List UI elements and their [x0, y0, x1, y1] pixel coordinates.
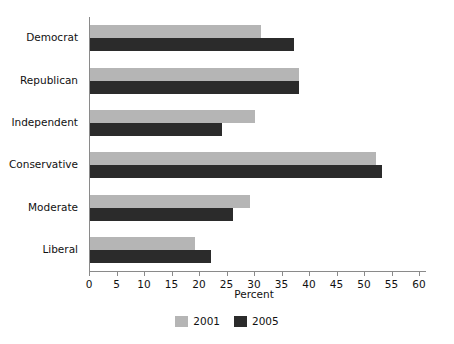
legend-label-2005: 2005 — [252, 315, 279, 327]
y-axis-label-moderate: Moderate — [0, 202, 78, 213]
x-axis-line — [89, 271, 426, 272]
y-axis-label-conservative: Conservative — [0, 159, 78, 170]
x-tick — [117, 271, 118, 276]
y-axis-category-labels: DemocratRepublicanIndependentConservativ… — [0, 17, 84, 271]
x-tick — [254, 271, 255, 276]
legend-swatch-icon-2001 — [175, 316, 188, 327]
plot-area: 051015202530354045505560 — [89, 17, 419, 271]
x-axis-title: Percent — [89, 288, 419, 300]
x-tick — [172, 271, 173, 276]
y-axis-line — [89, 17, 90, 271]
x-tick — [419, 271, 420, 276]
bar-moderate-2001 — [90, 195, 250, 208]
legend-item-2001: 2001 — [175, 315, 220, 327]
x-tick — [199, 271, 200, 276]
y-axis-label-democrat: Democrat — [0, 32, 78, 43]
bar-liberal-2005 — [90, 250, 211, 263]
x-tick — [392, 271, 393, 276]
chart-legend: 2001 2005 — [0, 315, 454, 327]
x-tick — [309, 271, 310, 276]
bar-independent-2005 — [90, 123, 222, 136]
bar-republican-2001 — [90, 68, 299, 81]
y-axis-label-republican: Republican — [0, 75, 78, 86]
x-tick — [227, 271, 228, 276]
bar-democrat-2001 — [90, 25, 261, 38]
bar-liberal-2001 — [90, 237, 195, 250]
x-tick — [364, 271, 365, 276]
legend-item-2005: 2005 — [234, 315, 279, 327]
y-axis-label-liberal: Liberal — [0, 244, 78, 255]
bar-democrat-2005 — [90, 38, 294, 51]
legend-swatch-icon-2005 — [234, 316, 247, 327]
bar-conservative-2005 — [90, 165, 382, 178]
x-tick — [144, 271, 145, 276]
bar-chart: DemocratRepublicanIndependentConservativ… — [0, 0, 454, 344]
legend-label-2001: 2001 — [193, 315, 220, 327]
x-tick — [89, 271, 90, 276]
bar-moderate-2005 — [90, 208, 233, 221]
x-tick — [337, 271, 338, 276]
y-axis-label-independent: Independent — [0, 117, 78, 128]
bar-republican-2005 — [90, 81, 299, 94]
x-tick — [282, 271, 283, 276]
bar-independent-2001 — [90, 110, 255, 123]
bar-conservative-2001 — [90, 152, 376, 165]
